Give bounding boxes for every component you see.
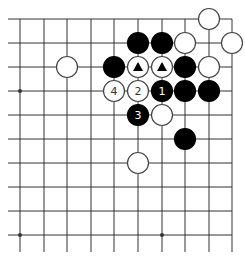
black-stone	[128, 33, 149, 54]
white-stone	[152, 57, 173, 78]
black-stone	[199, 81, 220, 102]
black-stone: 3	[128, 105, 149, 126]
star-point	[160, 233, 164, 237]
white-stone: 4	[104, 81, 125, 102]
move-number: 1	[159, 85, 166, 98]
black-stone	[175, 81, 196, 102]
move-number: 4	[111, 85, 118, 98]
move-number: 3	[135, 109, 142, 122]
white-stone	[199, 9, 220, 30]
white-stone	[152, 105, 173, 126]
white-stone	[199, 57, 220, 78]
star-point	[18, 89, 22, 93]
black-stone	[152, 33, 173, 54]
go-board: 4213	[0, 0, 245, 257]
black-stone	[175, 57, 196, 78]
white-stone: 2	[128, 81, 149, 102]
black-stone	[175, 129, 196, 150]
star-point	[18, 233, 22, 237]
black-stone	[104, 57, 125, 78]
move-number: 2	[135, 85, 142, 98]
black-stone: 1	[152, 81, 173, 102]
white-stone	[128, 57, 149, 78]
white-stone	[128, 153, 149, 174]
white-stone	[57, 57, 78, 78]
white-stone	[222, 33, 243, 54]
white-stone	[175, 33, 196, 54]
grid-lines	[8, 19, 232, 252]
